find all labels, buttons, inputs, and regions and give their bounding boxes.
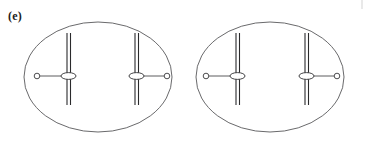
centriole-icon <box>164 73 170 79</box>
centromere-icon <box>299 73 314 80</box>
cell-division-diagram <box>0 0 365 151</box>
centromere-icon <box>129 73 144 80</box>
centromere-icon <box>61 73 76 80</box>
centriole-icon <box>34 73 40 79</box>
cell-membrane-icon <box>196 22 344 132</box>
figure-panel-e: (e) <box>0 0 365 151</box>
cell-membrane-icon <box>24 22 172 132</box>
centriole-icon <box>334 73 340 79</box>
centriole-icon <box>203 73 209 79</box>
centromere-icon <box>230 73 245 80</box>
right-daughter-cell <box>196 22 344 132</box>
left-daughter-cell <box>24 22 172 132</box>
